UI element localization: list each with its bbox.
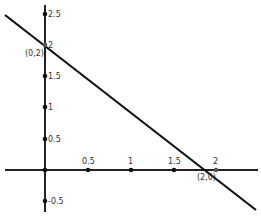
x-tick-label: 1 xyxy=(128,157,133,166)
x-tick-label: 1.5 xyxy=(168,157,181,166)
x-tick-label: 2 xyxy=(213,157,218,166)
y-tick-label: 2 xyxy=(48,41,53,50)
y-tick-2 xyxy=(43,43,48,48)
y-tick-label: -0.5 xyxy=(48,197,64,206)
y-tick-1 xyxy=(43,105,48,110)
y-tick-label: 2.5 xyxy=(48,10,61,19)
x-tick-label: 0.5 xyxy=(82,157,95,166)
y-tick-label: 1 xyxy=(48,103,53,112)
x-tick-2 xyxy=(214,168,219,173)
x-tick-0 xyxy=(43,168,48,173)
x-tick-0.5 xyxy=(86,168,91,173)
x-tick-1.5 xyxy=(172,168,177,173)
coordinate-plane: 0.5 1 1.5 2 2.5 2 1.5 1 0.5 -0.5 (0,2) (… xyxy=(0,0,261,224)
y-tick-neg0.5 xyxy=(43,199,48,204)
y-tick-2.5 xyxy=(43,12,48,17)
y-tick-1.5 xyxy=(43,74,48,79)
y-tick-0.5 xyxy=(43,137,48,142)
y-tick-label: 1.5 xyxy=(48,72,61,81)
y-tick-label: 0.5 xyxy=(48,135,61,144)
point-label-x-intercept: (2,0) xyxy=(197,173,216,182)
point-label-y-intercept: (0,2) xyxy=(25,49,44,58)
x-tick-1 xyxy=(129,168,134,173)
plotted-line xyxy=(5,15,256,210)
